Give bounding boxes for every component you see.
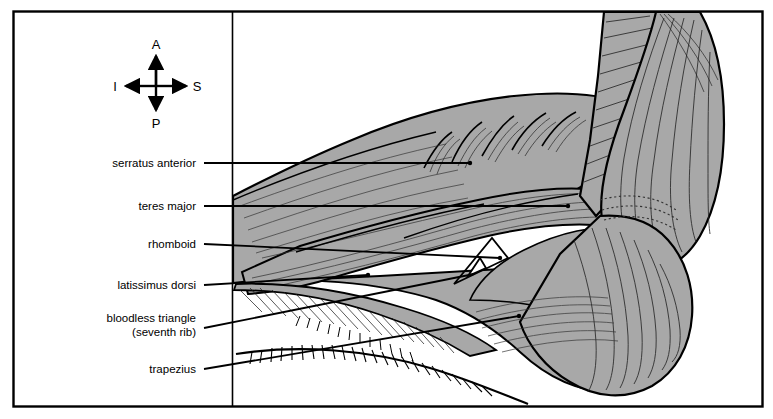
compass-label-posterior: P [152, 116, 161, 131]
label-text-rhomboid: rhomboid [148, 238, 196, 250]
leader-dot-trapezius [517, 314, 521, 318]
leader-dot-teres-major [566, 204, 570, 208]
leader-dot-rhomboid [498, 256, 502, 260]
label-text-bloodless-triangle-sub: (seventh rib) [132, 326, 196, 338]
compass-label-inferior: I [113, 79, 117, 94]
label-text-teres-major: teres major [138, 200, 196, 212]
compass-label-anterior: A [152, 37, 161, 52]
label-text-bloodless-triangle: bloodless triangle [106, 312, 196, 324]
anatomy-figure: A P S I serratus anterior teres major rh… [0, 0, 773, 419]
leader-dot-latissimus-dorsi [366, 273, 370, 277]
figure-page: A P S I serratus anterior teres major rh… [0, 0, 773, 419]
label-text-trapezius: trapezius [149, 363, 196, 375]
leader-dot-serratus-anterior [468, 161, 472, 165]
label-text-serratus-anterior: serratus anterior [112, 157, 196, 169]
label-text-latissimus-dorsi: latissimus dorsi [117, 279, 196, 291]
compass-label-superior: S [193, 79, 202, 94]
